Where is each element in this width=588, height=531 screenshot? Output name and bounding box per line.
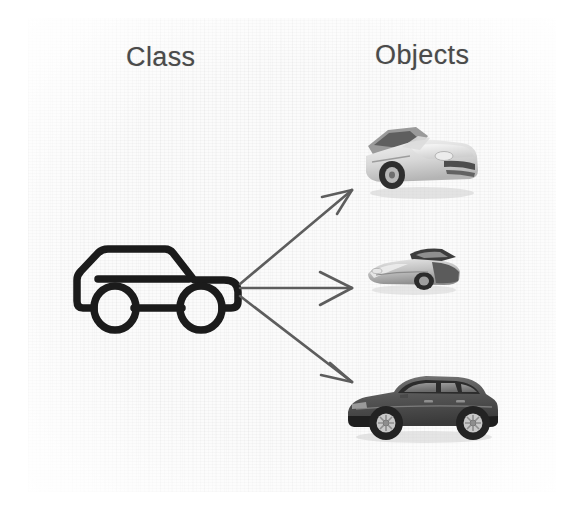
object-car-dark-hatchback <box>340 364 504 444</box>
arrows-layer <box>0 0 588 531</box>
diagram-canvas: Class Objects <box>0 0 588 531</box>
object-car-white-convertible <box>358 112 484 200</box>
arrow-to-object-2 <box>240 272 352 305</box>
arrow-to-object-3 <box>240 296 352 382</box>
arrow-to-object-1 <box>240 190 352 284</box>
object-car-gray-sportscar <box>362 240 464 296</box>
